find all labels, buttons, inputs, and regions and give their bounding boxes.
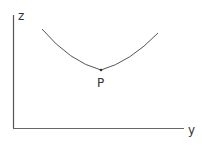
point-p-marker: [100, 69, 103, 72]
curve: [42, 29, 158, 70]
point-p-label: P: [97, 77, 104, 89]
z-axis-label: z: [18, 10, 24, 22]
y-axis-label: y: [188, 124, 195, 136]
